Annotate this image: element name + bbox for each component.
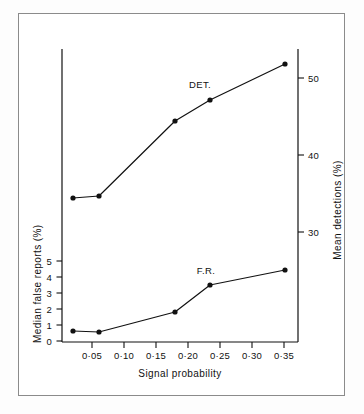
series-det-point bbox=[96, 193, 101, 198]
series-fr-label: F.R. bbox=[197, 265, 216, 276]
series-det-line bbox=[73, 64, 285, 198]
right-axis-tick-label-30: 30 bbox=[308, 227, 319, 238]
left-axis-tick-label-3: 3 bbox=[47, 288, 52, 299]
series-det: DET. bbox=[70, 61, 287, 200]
right-axis-title: Mean detections (%) bbox=[332, 160, 343, 259]
series-det-point bbox=[70, 195, 75, 200]
right-axis: 50 40 30 Mean detections (%) bbox=[298, 49, 343, 342]
right-axis-tick-label-40: 40 bbox=[308, 150, 319, 161]
x-axis-title: Signal probability bbox=[138, 368, 221, 379]
left-axis-tick-label-4: 4 bbox=[47, 272, 52, 283]
x-axis-tick-label-0.30: 0·30 bbox=[242, 350, 262, 361]
line-chart: 0 1 2 3 4 5 Median false reports (%) 0·0… bbox=[0, 0, 364, 414]
right-axis-tick-label-50: 50 bbox=[308, 73, 319, 84]
x-axis-tick-label-0.05: 0·05 bbox=[82, 350, 102, 361]
series-fr-point bbox=[172, 309, 177, 314]
series-fr: F.R. bbox=[70, 265, 287, 335]
figure-root: 0 1 2 3 4 5 Median false reports (%) 0·0… bbox=[0, 0, 364, 414]
series-det-point bbox=[172, 118, 177, 123]
x-axis-tick-label-0.15: 0·15 bbox=[146, 350, 166, 361]
x-axis-tick-label-0.35: 0·35 bbox=[274, 350, 294, 361]
series-fr-point bbox=[96, 329, 101, 334]
x-axis-tick-label-0.10: 0·10 bbox=[114, 350, 134, 361]
series-fr-point bbox=[70, 328, 75, 333]
left-axis-title: Median false reports (%) bbox=[32, 224, 43, 343]
series-det-point bbox=[207, 97, 212, 102]
series-det-label: DET. bbox=[189, 79, 211, 90]
left-axis-tick-label-5: 5 bbox=[47, 256, 52, 267]
left-axis-tick-label-0: 0 bbox=[47, 336, 52, 347]
x-axis-tick-label-0.20: 0·20 bbox=[178, 350, 198, 361]
series-fr-line bbox=[73, 270, 285, 332]
x-axis: 0·05 0·10 0·15 0·20 0·25 0·30 0·35 Signa… bbox=[62, 342, 298, 379]
left-axis-tick-label-1: 1 bbox=[47, 320, 52, 331]
x-axis-tick-label-0.25: 0·25 bbox=[210, 350, 230, 361]
left-axis-tick-label-2: 2 bbox=[47, 304, 52, 315]
series-fr-point bbox=[207, 282, 212, 287]
left-axis: 0 1 2 3 4 5 Median false reports (%) bbox=[32, 49, 62, 347]
series-fr-point bbox=[282, 267, 287, 272]
series-det-point bbox=[282, 61, 287, 66]
